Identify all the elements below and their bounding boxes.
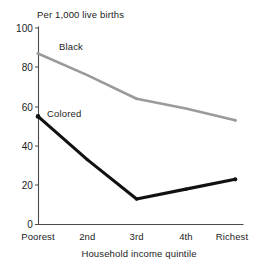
- chart-title: Per 1,000 live births: [37, 9, 124, 20]
- x-tick-label-2nd: 2nd: [79, 231, 95, 242]
- series-annotation-black: Black: [59, 41, 83, 52]
- y-tick-label-0: 0: [27, 219, 33, 230]
- y-tick-label-60: 60: [22, 102, 34, 113]
- x-tick-label-richest: Richest: [216, 231, 249, 242]
- series-line-colored: [38, 116, 235, 199]
- y-tick-label-40: 40: [22, 141, 34, 152]
- y-tick-label-80: 80: [22, 62, 34, 73]
- chart-container: Per 1,000 live births 100 80 60 40 20 0: [0, 0, 259, 265]
- y-tick-label-100: 100: [16, 23, 33, 34]
- y-tick-label-20: 20: [22, 180, 34, 191]
- x-tick-label-4th: 4th: [179, 231, 193, 242]
- x-axis-label: Household income quintile: [81, 248, 196, 259]
- x-tick-label-poorest: Poorest: [21, 231, 55, 242]
- series-annotation-colored: Colored: [47, 108, 81, 119]
- x-tick-label-3rd: 3rd: [130, 231, 144, 242]
- line-chart: Per 1,000 live births 100 80 60 40 20 0: [0, 0, 259, 265]
- series-markers-colored: [36, 114, 238, 201]
